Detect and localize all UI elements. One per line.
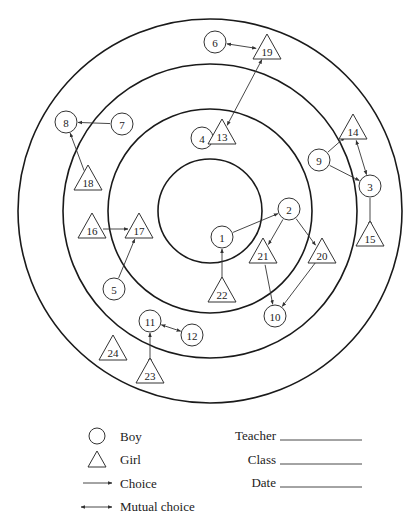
node-label: 3 [367,181,373,193]
choice-edge-2-21 [269,219,283,244]
girl-node-20: 20 [308,238,336,263]
girl-node-23: 23 [136,358,164,383]
node-label: 13 [217,131,229,143]
node-label: 17 [134,225,146,237]
node-label: 21 [258,250,269,262]
node-label: 11 [145,316,156,328]
girl-node-16: 16 [78,213,106,238]
node-label: 19 [262,46,274,58]
boy-legend-icon [89,428,105,444]
teacher-label: Teacher [235,428,277,443]
choice-edge-9-3 [330,165,360,180]
node-label: 15 [365,233,377,245]
girl-node-21: 21 [249,238,277,263]
ring-4 [158,159,262,263]
boy-node-6: 6 [204,31,226,53]
node-label: 9 [316,155,322,167]
node-label: 6 [212,37,218,49]
ring-1 [18,19,402,403]
choice-edges [70,44,370,363]
choice-edge-2-20 [296,219,315,245]
legend-choice-label: Choice [120,476,157,491]
boy-node-2: 2 [278,198,300,220]
legend: Boy Girl Choice Mutual choice [81,428,195,514]
form-fields: Teacher Class Date [235,428,362,490]
node-label: 7 [119,119,125,131]
date-label: Date [251,475,276,490]
girl-node-18: 18 [74,165,102,190]
choice-edge-20-10 [282,263,315,307]
choice-edge-7-8 [78,122,110,123]
girl-node-15: 15 [356,221,384,246]
node-label: 22 [217,289,228,301]
girl-node-14: 14 [339,114,367,139]
girl-node-19: 19 [253,34,281,59]
choice-edge-1-2 [233,214,278,233]
girl-node-24: 24 [99,335,127,360]
target-rings [18,19,402,403]
boy-node-11: 11 [139,310,161,332]
node-label: 1 [219,232,225,244]
girl-node-13: 13 [208,119,236,144]
mutual-choice-edge-11-12 [161,325,180,331]
node-label: 16 [87,225,99,237]
legend-boy-label: Boy [120,429,142,444]
student-nodes: 123456789101112131415161718192021222324 [55,31,384,383]
legend-girl-label: Girl [120,452,141,467]
mutual-choice-edge-14-3 [356,141,366,175]
node-label: 5 [111,284,117,296]
boy-node-8: 8 [55,111,77,133]
node-label: 2 [286,204,292,216]
boy-node-1: 1 [211,226,233,248]
node-label: 4 [199,133,205,145]
boy-node-9: 9 [308,149,330,171]
node-label: 8 [63,117,69,129]
choice-edge-21-10 [265,265,273,304]
node-label: 14 [348,126,360,138]
node-label: 20 [317,250,329,262]
mutual-choice-edge-6-19 [227,44,256,49]
node-label: 24 [108,347,120,359]
sociogram-diagram: 123456789101112131415161718192021222324 … [0,0,409,528]
boy-node-5: 5 [103,278,125,300]
choice-edge-5-17 [119,239,135,278]
girl-legend-icon [88,451,106,467]
boy-node-10: 10 [264,305,286,327]
class-label: Class [248,452,276,467]
node-label: 23 [145,370,157,382]
girl-node-17: 17 [125,213,153,238]
girl-node-22: 22 [208,277,236,302]
boy-node-7: 7 [111,113,133,135]
ring-2 [63,64,357,358]
boy-node-12: 12 [181,324,203,346]
node-label: 10 [270,311,282,323]
boy-node-3: 3 [359,175,381,197]
boy-node-4: 4 [191,127,213,149]
node-label: 18 [83,177,95,189]
legend-mutual-label: Mutual choice [120,499,195,514]
node-label: 12 [187,330,198,342]
